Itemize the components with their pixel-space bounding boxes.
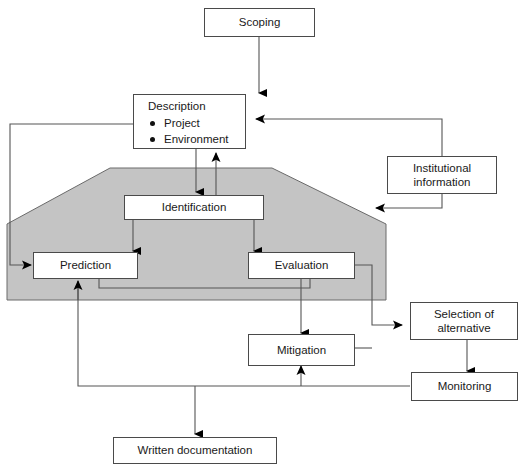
node-institutional-information-line2: information: [414, 175, 471, 189]
connector-institutional-to-description: [256, 119, 442, 156]
node-description-title: Description: [148, 99, 206, 113]
connector-institutional-to-region: [376, 193, 442, 208]
node-monitoring[interactable]: Monitoring: [411, 372, 518, 401]
connector-layer: [0, 0, 526, 474]
node-mitigation[interactable]: Mitigation: [248, 334, 355, 366]
node-description-bullet-0: Project: [164, 117, 200, 129]
list-item: Environment: [148, 132, 229, 146]
flowchart-diagram: Scoping Description Project Environment …: [0, 0, 526, 474]
node-written-documentation-label: Written documentation: [138, 443, 253, 457]
node-written-documentation[interactable]: Written documentation: [113, 437, 277, 464]
node-monitoring-label: Monitoring: [438, 379, 492, 393]
node-institutional-information[interactable]: Institutional information: [387, 156, 497, 194]
node-prediction-label: Prediction: [60, 258, 111, 272]
node-evaluation[interactable]: Evaluation: [248, 252, 355, 279]
list-item: Project: [148, 116, 229, 130]
node-description[interactable]: Description Project Environment: [133, 94, 246, 149]
node-selection-of-alternative[interactable]: Selection of alternative: [410, 302, 518, 340]
node-institutional-information-line1: Institutional: [413, 161, 471, 175]
bullet-icon: [150, 137, 155, 142]
node-evaluation-label: Evaluation: [275, 258, 329, 272]
node-identification[interactable]: Identification: [124, 195, 264, 220]
node-scoping[interactable]: Scoping: [204, 8, 315, 37]
node-selection-of-alternative-line1: Selection of: [434, 307, 494, 321]
node-prediction[interactable]: Prediction: [33, 252, 138, 279]
node-description-bullets: Project Environment: [148, 115, 229, 146]
node-identification-label: Identification: [162, 200, 227, 214]
node-description-bullet-1: Environment: [164, 133, 229, 145]
node-mitigation-label: Mitigation: [277, 343, 326, 357]
node-selection-of-alternative-line2: alternative: [437, 321, 490, 335]
node-scoping-label: Scoping: [239, 15, 281, 29]
bullet-icon: [150, 121, 155, 126]
